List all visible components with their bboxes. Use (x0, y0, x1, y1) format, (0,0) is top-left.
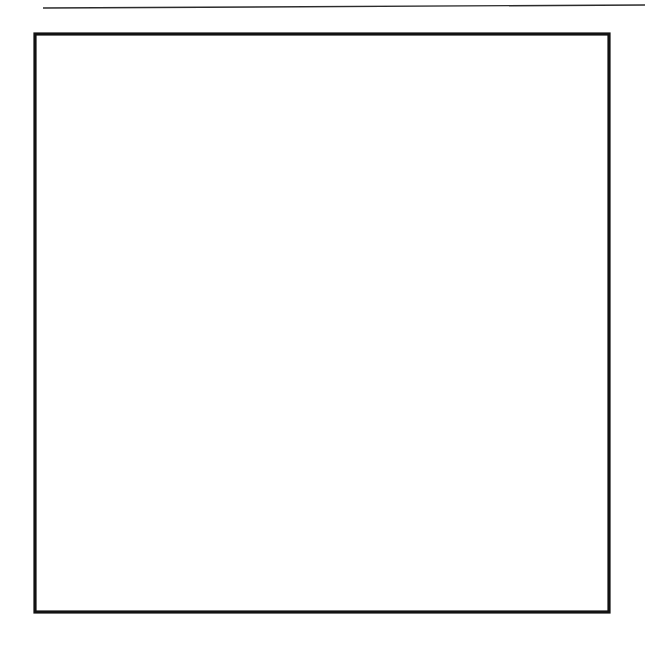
figure-root (0, 0, 645, 652)
top-page-rule (43, 5, 645, 8)
block-outline (35, 34, 609, 612)
quilt-block-diagram (0, 0, 645, 652)
